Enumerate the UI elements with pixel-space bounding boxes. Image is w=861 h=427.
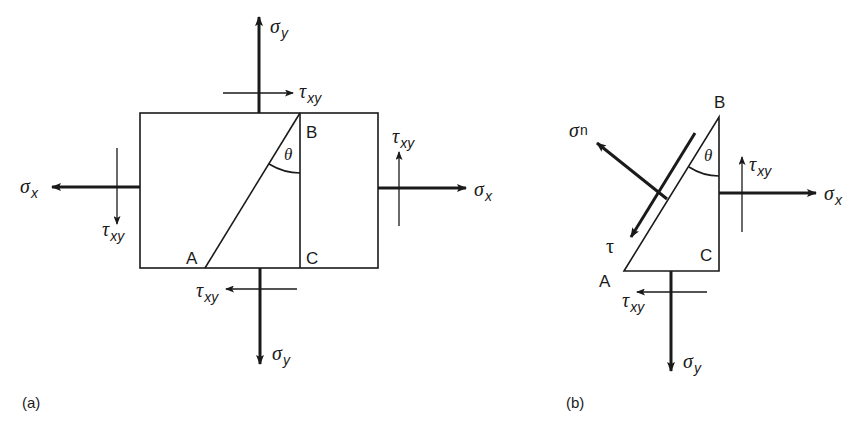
panel-a: B A C θ σy τxy σx τxy σx τxy σy τxy (a)	[20, 15, 493, 411]
tau-label: τ	[606, 235, 614, 257]
sigma-n-label: σn	[569, 119, 588, 141]
theta-arc	[269, 164, 300, 173]
tau-xy-right-label: τxy	[392, 125, 415, 151]
sigma-x-label: σx	[824, 182, 843, 208]
point-a-label: A	[186, 249, 198, 268]
tau-xy-bottom-label: τxy	[196, 279, 219, 305]
panel-b-caption: (b)	[566, 394, 584, 411]
sigma-y-top-label: σy	[270, 15, 289, 41]
theta-arc	[689, 167, 719, 176]
point-b-label: B	[306, 123, 317, 142]
theta-label: θ	[704, 146, 712, 165]
panel-a-caption: (a)	[22, 394, 40, 411]
theta-label: θ	[284, 145, 292, 164]
sigma-n-arrow	[597, 143, 667, 199]
point-a-label: A	[599, 272, 611, 291]
stress-element-rectangle	[140, 113, 378, 268]
sigma-x-left-label: σx	[20, 175, 39, 201]
tau-xy-bottom-label: τxy	[622, 289, 645, 315]
panel-b: B A C θ σn τ σx τxy σy τxy (b)	[566, 93, 843, 411]
point-b-label: B	[714, 93, 725, 112]
sigma-x-right-label: σx	[474, 178, 493, 204]
tau-xy-right-label: τxy	[749, 153, 772, 179]
tau-shear-arrow	[631, 133, 695, 237]
stress-element-figure: B A C θ σy τxy σx τxy σx τxy σy τxy (a) …	[0, 0, 861, 427]
tau-xy-top-label: τxy	[299, 80, 322, 106]
point-c-label: C	[306, 249, 318, 268]
point-c-label: C	[700, 246, 712, 265]
sigma-y-label: σy	[683, 350, 702, 376]
sigma-y-bottom-label: σy	[272, 342, 291, 368]
inclined-plane-ab	[205, 113, 300, 268]
tau-xy-left-label: τxy	[102, 218, 125, 244]
